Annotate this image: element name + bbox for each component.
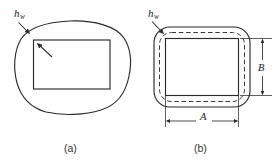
panel-b-inner-cavity [166,39,239,96]
panel-a [15,21,131,115]
panel-a-inner-cavity [34,40,111,89]
panel-b-caption: (b) [194,143,207,154]
panel-a-hw-label: hw [14,8,24,19]
panel-a-hw-subscript: w [20,13,25,21]
dim-a-label: A [200,112,206,123]
panel-a-hw-leader-inner [38,44,53,58]
panel-a-hw-leader-outer [19,23,30,34]
panel-b-hw-subscript: w [154,13,159,21]
panel-a-outer-contour [15,21,131,115]
dim-b-label: B [258,63,264,74]
panel-b-hw-leader [152,22,164,34]
panel-a-hw-symbol: h [14,7,20,19]
panel-b-hw-label: hw [148,8,158,19]
panel-b [152,22,272,128]
panel-b-hw-symbol: h [148,7,154,19]
panel-a-caption: (a) [64,143,77,154]
figure-drawing [0,0,276,163]
figure-container: hw hw A B (a) (b) [0,0,276,163]
panel-b-midline-contour [160,33,245,102]
